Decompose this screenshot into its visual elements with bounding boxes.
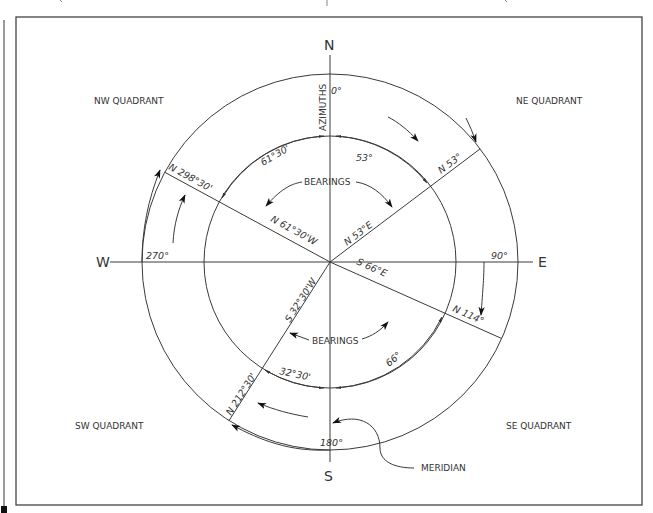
meridian-label: MERIDIAN	[421, 463, 466, 473]
bearing-n53e-label: N 53°E	[342, 219, 375, 248]
bearings-lower-arrow-right	[362, 322, 388, 339]
azimuth-arrow-w-outer	[142, 170, 160, 262]
arc-6130	[222, 136, 324, 198]
nw-quadrant-label: NW QUADRANT	[94, 96, 164, 106]
north-label: N	[324, 37, 334, 53]
bearings-lower-arrow-left	[290, 333, 309, 340]
azimuth-arrow-ne-inner	[388, 117, 418, 141]
top-tick-right	[505, 0, 507, 2]
line-n114	[330, 262, 502, 339]
bearings-upper-arrow-left	[266, 182, 302, 206]
angle-3230-label: 32°30'	[279, 365, 312, 382]
azimuth-270-label: 270°	[146, 250, 169, 261]
azimuths-axis-label: AZIMUTHS	[318, 83, 328, 131]
bearing-s3230w-label: S 32°30'W	[282, 275, 318, 324]
se-quadrant-label: SE QUADRANT	[506, 421, 572, 431]
meridian-leader	[333, 419, 414, 468]
azimuth-arrow-sw-outer	[232, 425, 330, 450]
angle-6130-label: 61°30'	[259, 142, 292, 167]
azimuth-180-label: 180°	[320, 437, 343, 448]
bearings-upper-arrow-right	[356, 182, 392, 207]
azimuth-90-label: 90°	[491, 250, 508, 261]
south-label: S	[324, 468, 333, 484]
line-n53	[330, 149, 480, 262]
page-corner-mark	[1, 506, 7, 513]
bearings-lower-label: BEARINGS	[312, 336, 359, 346]
ne-quadrant-label: NE QUADRANT	[516, 96, 583, 106]
west-label: W	[96, 254, 110, 270]
azimuth-n212-label: N 212°30'	[223, 371, 258, 417]
azimuth-bearing-diagram: N S E W NW QUADRANT NE QUADRANT SW QUADR…	[0, 0, 653, 513]
arc-66	[336, 317, 442, 388]
angle-53-label: 53°	[356, 152, 373, 163]
azimuth-arrow-sw-inner	[258, 403, 308, 417]
sw-quadrant-label: SW QUADRANT	[75, 421, 144, 431]
azimuth-arrow-e	[481, 262, 484, 315]
bearings-upper-label: BEARINGS	[304, 177, 351, 187]
azimuth-0-label: 0°	[331, 85, 342, 96]
east-label: E	[538, 254, 547, 270]
arc-53	[336, 136, 427, 183]
azimuth-arrow-w-inner	[173, 195, 185, 243]
top-tick-left	[60, 0, 62, 2]
